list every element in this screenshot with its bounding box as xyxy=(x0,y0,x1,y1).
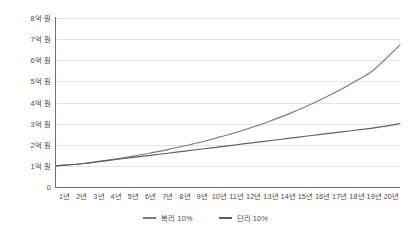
x-axis-tick-label: 5년 xyxy=(128,191,139,201)
x-axis-tick-label: 12년 xyxy=(246,191,261,201)
x-axis-tick-label: 8년 xyxy=(179,191,190,201)
legend-item[interactable]: 단리 10% xyxy=(219,213,268,223)
x-axis-tick-label: 15년 xyxy=(298,191,313,201)
x-axis-tick-label: 14년 xyxy=(280,191,295,201)
y-axis-tick-label: 4억 원 xyxy=(31,98,52,108)
x-axis-tick-label: 16년 xyxy=(315,191,330,201)
x-axis-tick-label: 11년 xyxy=(229,191,244,201)
x-axis-tick-label: 18년 xyxy=(349,191,364,201)
y-axis-tick-labels: 8억 원7억 원6억 원5억 원4억 원3억 원2억 원1억 원0 xyxy=(0,0,51,227)
y-axis-tick-label: 0 xyxy=(47,183,51,192)
x-axis-tick-label: 9년 xyxy=(197,191,208,201)
y-axis-tick-label: 1억 원 xyxy=(31,161,52,171)
x-axis-tick-label: 20년 xyxy=(384,191,399,201)
x-axis-tick-label: 17년 xyxy=(332,191,347,201)
x-axis-tick-label: 4년 xyxy=(111,191,122,201)
legend-item-label: 단리 10% xyxy=(237,213,268,223)
x-axis-tick-label: 19년 xyxy=(366,191,381,201)
x-axis-tick-label: 10년 xyxy=(212,191,227,201)
legend-item[interactable]: 복리 10% xyxy=(143,213,192,223)
y-axis-tick-label: 2억 원 xyxy=(31,140,52,150)
chart-legend: 복리 10%단리 10% xyxy=(0,210,411,226)
x-axis-tick-label: 1년 xyxy=(59,191,70,201)
x-axis-tick-label: 2년 xyxy=(76,191,87,201)
y-axis-tick-label: 3억 원 xyxy=(31,119,52,129)
y-axis-tick-label: 5억 원 xyxy=(31,76,52,86)
legend-line-icon xyxy=(219,217,232,218)
x-axis-line xyxy=(55,187,400,188)
legend-item-label: 복리 10% xyxy=(161,213,192,223)
y-axis-tick-label: 6억 원 xyxy=(31,55,52,65)
x-axis-tick-label: 7년 xyxy=(162,191,173,201)
y-axis-tick-label: 7억 원 xyxy=(31,34,52,44)
series-line xyxy=(56,45,400,166)
x-axis-tick-labels: 1년2년3년4년5년6년7년8년9년10년11년12년13년14년15년16년1… xyxy=(56,191,400,203)
interest-growth-line-chart: 8억 원7억 원6억 원5억 원4억 원3억 원2억 원1억 원0 1년2년3년… xyxy=(0,0,411,227)
y-axis-tick-label: 8억 원 xyxy=(31,13,52,23)
legend-line-icon xyxy=(143,217,156,218)
x-axis-tick-label: 6년 xyxy=(145,191,156,201)
x-axis-tick-label: 13년 xyxy=(263,191,278,201)
series-line xyxy=(56,124,400,166)
series-plot xyxy=(56,18,400,187)
x-axis-tick-label: 3년 xyxy=(93,191,104,201)
